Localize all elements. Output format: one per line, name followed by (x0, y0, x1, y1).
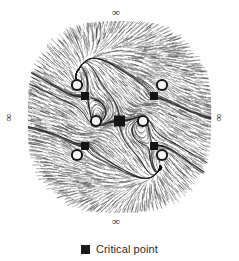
infinity-label-top: ∞ (112, 7, 120, 18)
legend: Critical point (0, 238, 239, 260)
infinity-label-left: ∞ (3, 114, 14, 122)
filled-square-icon (81, 245, 90, 254)
vector-field-plot (0, 0, 239, 235)
infinity-label-right: ∞ (213, 114, 224, 122)
legend-label: Critical point (96, 243, 158, 255)
infinity-label-bottom: ∞ (112, 216, 120, 227)
vector-field-figure: ∞ ∞ ∞ ∞ Critical point (0, 0, 239, 261)
streamline-canvas (0, 0, 239, 235)
